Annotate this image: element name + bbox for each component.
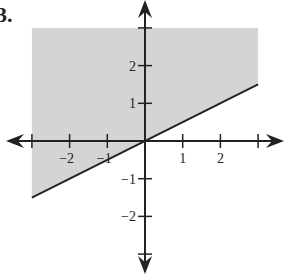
x-tick-label: 2: [217, 151, 224, 166]
y-tick-label: 2: [129, 59, 136, 74]
inequality-graph: −2−112−2−112: [0, 0, 285, 274]
y-tick-label: −2: [121, 209, 136, 224]
x-tick-label: −2: [59, 151, 74, 166]
x-tick-label: 1: [179, 151, 186, 166]
y-tick-label: −1: [121, 172, 136, 187]
y-tick-label: 1: [129, 96, 136, 111]
